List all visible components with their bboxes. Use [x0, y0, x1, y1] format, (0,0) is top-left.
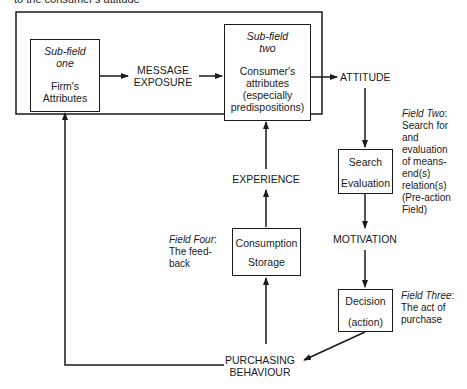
field-three-line: purchase [401, 314, 454, 326]
field-two-line: of means- [402, 156, 451, 168]
field-two-line: end(s) [402, 168, 451, 180]
field-two-title: Field Two [402, 108, 445, 119]
message-exposure-label-2: EXPOSURE [128, 76, 198, 88]
message-exposure-label-1: MESSAGE [128, 64, 198, 76]
field-three-note: Field Three: The act of purchase [401, 290, 454, 326]
subfield-two-box: Sub-field two Consumer's attributes (esp… [224, 24, 311, 121]
storage-label: Storage [233, 256, 300, 268]
motivation-label: MOTIVATION [330, 233, 400, 245]
consumption-label: Consumption [233, 237, 300, 249]
decision-box: Decision (action) [338, 289, 393, 332]
attitude-label: ATTITUDE [340, 71, 391, 83]
field-four-line: back [169, 258, 217, 270]
decision-label: Decision [339, 295, 392, 307]
field-two-line: (Pre-action [402, 192, 451, 204]
field-two-line: relation(s) [402, 180, 451, 192]
subfield-one-heading-1: Sub-field [31, 45, 99, 57]
subfield-two-heading-1: Sub-field [225, 30, 310, 42]
field-four-note: Field Four: The feed- back [169, 234, 217, 270]
field-four-title: Field Four [169, 234, 214, 245]
experience-label: EXPERIENCE [231, 173, 301, 185]
field-two-line: and [402, 132, 451, 144]
subfield-one-box: Sub-field one Firm's Attributes [30, 39, 100, 112]
field-three-line: The act of [401, 302, 454, 314]
subfield-one-body-2: Attributes [31, 92, 99, 104]
action-label: (action) [339, 316, 392, 328]
subfield-two-body-2: attributes [225, 77, 310, 89]
field-three-title: Field Three [401, 290, 452, 301]
search-evaluation-box: Search Evaluation [338, 149, 393, 194]
evaluation-label: Evaluation [339, 177, 392, 189]
search-label: Search [339, 156, 392, 168]
field-two-line: evaluation [402, 144, 451, 156]
subfield-two-body-4: predispositions) [225, 101, 310, 113]
field-two-line: Field) [402, 204, 451, 216]
field-two-note: Field Two: Search for and evaluation of … [402, 108, 451, 216]
consumption-storage-box: Consumption Storage [232, 228, 301, 276]
subfield-two-body-1: Consumer's [225, 65, 310, 77]
subfield-one-body-1: Firm's [31, 80, 99, 92]
purchasing-label-2: BEHAVIOUR [224, 366, 296, 378]
field-four-line: The feed- [169, 246, 217, 258]
field-two-line: Search for [402, 120, 451, 132]
subfield-one-heading-2: one [31, 57, 99, 69]
subfield-two-heading-2: two [225, 42, 310, 54]
subfield-two-body-3: (especially [225, 89, 310, 101]
purchasing-label-1: PURCHASING [224, 354, 296, 366]
